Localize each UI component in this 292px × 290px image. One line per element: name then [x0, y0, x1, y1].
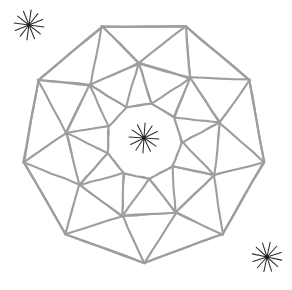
starburst-top-left: [14, 10, 44, 40]
starburst-bottom-right: [252, 242, 281, 271]
starburst-core: [27, 23, 31, 27]
tile-center-polygon: [108, 104, 182, 179]
figure-canvas: [0, 0, 292, 290]
starburst-core: [142, 136, 146, 140]
starburst-core: [265, 255, 269, 259]
rhombic-rosette-figure: [0, 0, 292, 290]
